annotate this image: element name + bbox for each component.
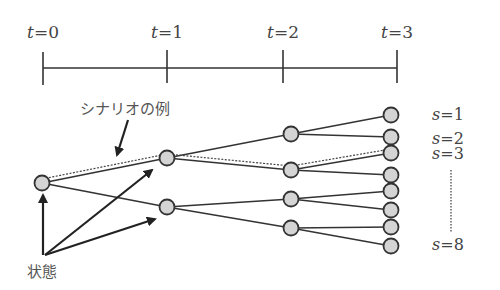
node-t2 (284, 192, 299, 207)
scenario-arrow (117, 120, 128, 155)
node-t2 (284, 127, 299, 142)
tree-edges (42, 115, 391, 246)
time-label-t1: t=1 (151, 22, 183, 42)
tree-nodes (35, 108, 399, 254)
scenario-tree-diagram (0, 0, 500, 290)
state-arrow-t1-lower (45, 219, 155, 255)
node-t3 (384, 130, 399, 145)
scenario-label-s8: s=8 (432, 235, 464, 254)
node-t2 (284, 221, 299, 236)
node-t2 (284, 163, 299, 178)
node-t3 (384, 146, 399, 161)
scenario-example-path (42, 149, 391, 179)
annotation-arrows (43, 120, 155, 255)
node-t1 (160, 151, 175, 166)
time-label-t0: t=0 (27, 22, 59, 42)
node-t3 (384, 239, 399, 254)
timeline-axis (43, 50, 397, 85)
node-t3 (384, 220, 399, 235)
scenario-example-label: シナリオの例 (80, 97, 170, 118)
node-t3 (384, 184, 399, 199)
node-t3 (384, 203, 399, 218)
scenario-label-s1: s=1 (432, 105, 464, 124)
node-t1 (160, 200, 175, 215)
state-arrow-t1-upper (45, 170, 152, 255)
state-label: 状態 (27, 260, 57, 281)
node-t3 (384, 108, 399, 123)
scenario-label-s3: s=3 (432, 144, 464, 163)
time-label-t3: t=3 (381, 22, 413, 42)
time-label-t2: t=2 (267, 22, 299, 42)
node-t0 (35, 176, 50, 191)
node-t3 (384, 168, 399, 183)
